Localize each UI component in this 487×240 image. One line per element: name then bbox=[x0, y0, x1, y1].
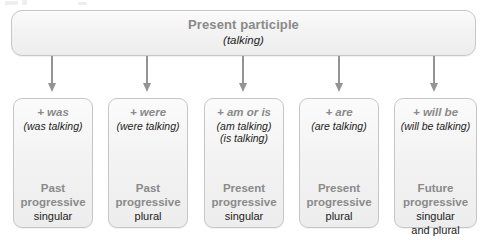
arrow-head bbox=[335, 83, 343, 92]
tense-name: progressive bbox=[115, 196, 180, 210]
present-participle-header-box: Present participle (talking) bbox=[11, 10, 476, 56]
tense-name: progressive bbox=[211, 196, 276, 210]
arrow-stem bbox=[242, 56, 244, 85]
grammatical-number: singular bbox=[225, 210, 264, 224]
example-phrase: (am talking) bbox=[217, 120, 272, 133]
tense-name: Present bbox=[223, 182, 265, 196]
grammatical-number: and plural bbox=[411, 224, 459, 238]
auxiliary-verb: + were bbox=[130, 106, 166, 120]
tense-box-4: + are(are talking)Presentprogressiveplur… bbox=[299, 98, 379, 228]
arrow-down-icon bbox=[239, 56, 248, 94]
arrow-stem bbox=[51, 56, 53, 85]
example-phrase: (are talking) bbox=[311, 120, 366, 133]
tense-name: Past bbox=[41, 182, 65, 196]
tense-box-2: + were(were talking)Pastprogressiveplura… bbox=[108, 98, 188, 228]
arrow-head bbox=[239, 83, 247, 92]
grammatical-number: plural bbox=[326, 210, 353, 224]
tense-name: Past bbox=[136, 182, 160, 196]
arrow-head bbox=[143, 83, 151, 92]
auxiliary-verb: + are bbox=[325, 106, 352, 120]
page-artifact bbox=[22, 0, 27, 5]
arrow-down-icon bbox=[335, 56, 344, 94]
arrow-head bbox=[430, 83, 438, 92]
arrow-down-icon bbox=[48, 56, 57, 94]
example-phrase: (were talking) bbox=[116, 120, 179, 133]
tense-name: progressive bbox=[403, 196, 468, 210]
example-phrase: (is talking) bbox=[220, 132, 268, 145]
tense-name: Present bbox=[318, 182, 360, 196]
arrow-down-icon bbox=[143, 56, 152, 94]
grammatical-number: singular bbox=[416, 210, 455, 224]
grammatical-number: plural bbox=[135, 210, 162, 224]
diagram-title: Present participle bbox=[188, 18, 299, 32]
page-artifact bbox=[5, 1, 18, 5]
arrow-head bbox=[48, 83, 56, 92]
page-artifact bbox=[78, 2, 87, 5]
example-phrase: (was talking) bbox=[24, 120, 83, 133]
auxiliary-verb: + will be bbox=[413, 106, 458, 120]
tense-box-1: + was(was talking)Pastprogressivesingula… bbox=[13, 98, 93, 228]
arrow-stem bbox=[433, 56, 435, 85]
auxiliary-verb: + am or is bbox=[217, 106, 271, 120]
tense-box-5: + will be(will be talking)Futureprogress… bbox=[394, 98, 477, 228]
tense-name: Future bbox=[418, 182, 454, 196]
tense-name: progressive bbox=[20, 196, 85, 210]
example-phrase: (will be talking) bbox=[401, 120, 470, 133]
arrow-stem bbox=[146, 56, 148, 85]
auxiliary-verb: + was bbox=[37, 106, 69, 120]
arrow-stem bbox=[338, 56, 340, 85]
grammatical-number: singular bbox=[34, 210, 73, 224]
arrow-down-icon bbox=[430, 56, 439, 94]
present-participle-diagram: Present participle (talking) + was(was t… bbox=[0, 0, 487, 240]
tense-box-3: + am or is(am talking)(is talking)Presen… bbox=[204, 98, 284, 228]
tense-name: progressive bbox=[306, 196, 371, 210]
diagram-subtitle: (talking) bbox=[223, 33, 264, 47]
